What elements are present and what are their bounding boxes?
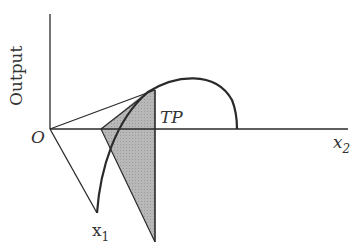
x2-label: x2 [333, 132, 350, 156]
origin-label: O [31, 127, 45, 147]
tp-label: TP [160, 107, 183, 127]
x1-ray [50, 129, 97, 213]
x2-label-sub: 2 [342, 142, 351, 156]
x1-label-sub: 1 [102, 230, 110, 244]
production-diagram: Output O TP x1 x2 [0, 0, 361, 251]
x1-label-main: x [92, 220, 102, 240]
y-axis-label: Output [6, 45, 26, 106]
x1-label: x1 [92, 220, 109, 244]
x2-label-main: x [333, 132, 343, 152]
